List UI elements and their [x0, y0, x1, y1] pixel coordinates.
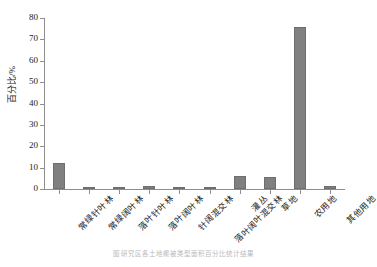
x-axis-label: 草地 — [280, 194, 299, 213]
x-tick-mark — [210, 190, 211, 194]
x-axis-label: 农用地 — [313, 194, 338, 219]
bar — [234, 176, 246, 189]
x-tick-mark — [89, 190, 90, 194]
x-tick-mark — [119, 190, 120, 194]
x-tick-mark — [300, 190, 301, 194]
x-tick-mark — [149, 190, 150, 194]
x-tick-mark — [59, 190, 60, 194]
y-axis-line — [44, 18, 45, 190]
y-tick-label: 40 — [0, 98, 38, 108]
x-tick-mark — [179, 190, 180, 194]
y-tick-label: 10 — [0, 162, 38, 172]
y-tick-label: 80 — [0, 12, 38, 22]
bar — [143, 186, 155, 189]
y-tick-mark — [40, 61, 44, 62]
bar — [113, 187, 125, 189]
y-tick-label: 30 — [0, 119, 38, 129]
y-tick-mark — [40, 189, 44, 190]
bar — [264, 177, 276, 189]
bar — [53, 163, 65, 189]
plot-area: 01020304050607080 — [44, 18, 345, 190]
y-tick-mark — [40, 168, 44, 169]
y-tick-mark — [40, 18, 44, 19]
y-tick-mark — [40, 39, 44, 40]
y-tick-label: 70 — [0, 33, 38, 43]
y-tick-label: 20 — [0, 140, 38, 150]
y-tick-mark — [40, 104, 44, 105]
y-tick-label: 60 — [0, 55, 38, 65]
y-tick-label: 50 — [0, 76, 38, 86]
bar — [204, 187, 216, 189]
y-tick-mark — [40, 146, 44, 147]
bar — [83, 187, 95, 189]
y-tick-mark — [40, 82, 44, 83]
bar — [324, 186, 336, 189]
y-tick-label: 0 — [0, 183, 38, 193]
y-tick-mark — [40, 125, 44, 126]
bar — [173, 187, 185, 189]
bar — [294, 27, 306, 189]
x-axis-label: 其他用地 — [345, 194, 377, 226]
x-tick-mark — [240, 190, 241, 194]
figure-caption: 图 研究区各土地覆被类型面积百分比统计结果 — [0, 248, 367, 258]
x-tick-mark — [270, 190, 271, 194]
